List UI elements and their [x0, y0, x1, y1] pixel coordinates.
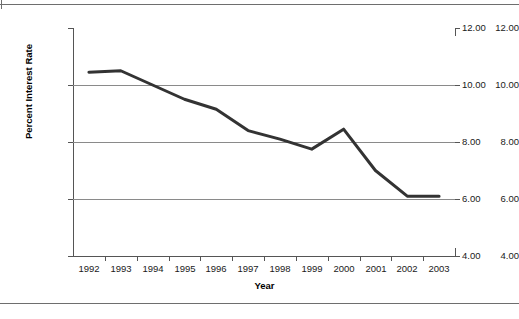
y-axis-label-right-10.00: 10.00	[462, 80, 486, 90]
x-axis-title: Year	[73, 280, 456, 291]
interest-rate-line-series	[73, 28, 455, 256]
x-axis-label-2001: 2001	[360, 263, 392, 274]
x-axis-label-2003: 2003	[423, 263, 455, 274]
right-axis-segment-12	[455, 28, 456, 36]
x-axis-label-1993: 1993	[105, 263, 137, 274]
y-axis-label-right-8.00: 8.00	[462, 137, 481, 147]
x-tick-9	[360, 257, 361, 261]
y-tick-left-12	[68, 28, 73, 29]
x-tick-4	[200, 257, 201, 261]
x-tick-6	[264, 257, 265, 261]
x-tick-1	[105, 257, 106, 261]
x-axis-label-2002: 2002	[391, 263, 423, 274]
x-axis-label-1995: 1995	[169, 263, 201, 274]
x-tick-11	[423, 257, 424, 261]
x-axis-label-1996: 1996	[200, 263, 232, 274]
bottom-horizontal-rule	[0, 303, 519, 304]
left-edge-tick-mark	[1, 0, 2, 9]
top-horizontal-rule	[0, 4, 519, 5]
series-polyline	[89, 71, 439, 196]
right-axis-segment-4	[455, 248, 456, 256]
y-axis-label-right-12.00: 12.00	[462, 23, 486, 33]
y-tick-left-8	[68, 142, 73, 143]
x-tick-7	[296, 257, 297, 261]
x-tick-8	[328, 257, 329, 261]
x-axis-label-1998: 1998	[264, 263, 296, 274]
x-tick-3	[169, 257, 170, 261]
y-axis-label-right-4.00: 4.00	[462, 251, 481, 261]
plot-area	[73, 28, 455, 256]
x-axis-label-1999: 1999	[296, 263, 328, 274]
x-tick-2	[137, 257, 138, 261]
x-tick-10	[391, 257, 392, 261]
y-tick-left-4	[68, 256, 73, 257]
x-axis-label-1994: 1994	[137, 263, 169, 274]
x-tick-5	[232, 257, 233, 261]
x-axis-label-1992: 1992	[73, 263, 105, 274]
x-axis-label-2000: 2000	[328, 263, 360, 274]
y-axis-label-right-6.00: 6.00	[462, 194, 481, 204]
x-axis-label-1997: 1997	[232, 263, 264, 274]
figure-container: 4.006.008.0010.0012.00 4.006.008.0010.00…	[0, 0, 519, 319]
y-axis-title: Percent Interest Rate	[23, 22, 34, 162]
y-tick-left-10	[68, 85, 73, 86]
y-tick-left-6	[68, 199, 73, 200]
